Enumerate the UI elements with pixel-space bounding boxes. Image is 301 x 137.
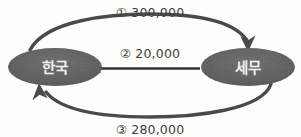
edge-3-path — [46, 84, 271, 117]
diagram-canvas: 한국 세무 ① 300,000 ② 20,000 ③ 280,000 — [0, 0, 301, 137]
edge-3-arrow-bottom — [32, 83, 271, 117]
edge-2-arrow-middle — [88, 64, 200, 74]
diagram-container: 한국 세무 ① 300,000 ② 20,000 ③ 280,000 — [0, 0, 301, 137]
node-tax[interactable]: 세무 — [201, 48, 295, 86]
node-korea[interactable]: 한국 — [8, 48, 102, 86]
node-tax-label: 세무 — [235, 60, 262, 76]
edge-1-label: ① 300,000 — [116, 5, 185, 20]
node-korea-label: 한국 — [42, 60, 69, 76]
edge-3-label: ③ 280,000 — [116, 122, 185, 137]
edge-2-label: ② 20,000 — [120, 46, 181, 61]
